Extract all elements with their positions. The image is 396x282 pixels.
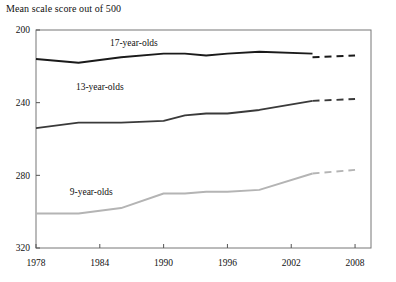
y-tick-label: 320: [16, 243, 31, 253]
y-axis-ticks: [36, 30, 40, 248]
x-tick-label: 1984: [90, 258, 109, 268]
series-label-9-year-olds: 9-year-olds: [70, 187, 113, 197]
x-tick-label: 2008: [346, 258, 365, 268]
y-tick-label: 200: [16, 25, 31, 35]
x-axis-tick-labels: 197819841990199620022008: [27, 258, 365, 268]
plot-frame-rect: [36, 30, 371, 248]
x-tick-label: 1996: [218, 258, 237, 268]
plot-frame: [36, 30, 371, 248]
series-line-dashed: [313, 55, 356, 57]
chart-plot-area: 320280240200 197819841990199620022008 17…: [0, 0, 396, 282]
series-label-17-year-olds: 17-year-olds: [110, 38, 158, 48]
x-axis-ticks: [36, 244, 355, 248]
series-line-dashed: [313, 99, 356, 101]
y-tick-label: 280: [16, 171, 31, 181]
series-label-13-year-olds: 13-year-olds: [76, 82, 124, 92]
series-line-dashed: [313, 170, 356, 174]
chart-container: Mean scale score out of 500 320280240200…: [0, 0, 396, 282]
series-line-solid: [36, 52, 313, 63]
x-tick-label: 2002: [282, 258, 301, 268]
x-tick-label: 1978: [27, 258, 46, 268]
y-tick-label: 240: [16, 98, 31, 108]
x-tick-label: 1990: [154, 258, 173, 268]
y-axis-tick-labels: 320280240200: [16, 25, 31, 253]
series-line-solid: [36, 101, 313, 128]
